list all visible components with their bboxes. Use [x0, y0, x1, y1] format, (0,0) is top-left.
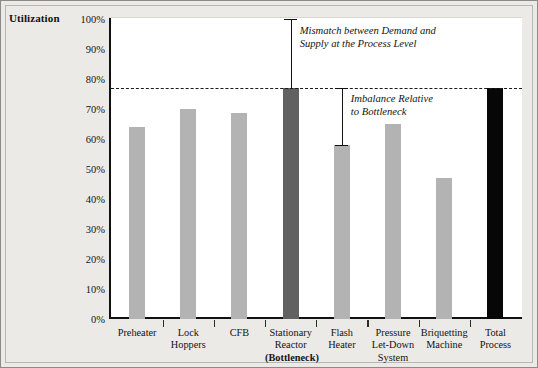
x-axis-label: FlashHeater: [316, 327, 367, 352]
bar: [129, 127, 145, 319]
plot-area: [109, 18, 522, 319]
x-axis-label-line: Flash: [316, 327, 367, 340]
annotation-line: Supply at the Process Level: [300, 37, 436, 50]
x-axis-label: Preheater: [112, 327, 163, 340]
y-axis-tick-label: 30%: [5, 223, 105, 234]
y-axis-tick-label: 90%: [5, 43, 105, 54]
annotation-mismatch-cap: [284, 19, 297, 21]
y-axis-tick-label: 20%: [5, 253, 105, 264]
x-axis-label-line: Preheater: [112, 327, 163, 340]
x-axis-label: StationaryReactor(Bottleneck): [265, 327, 316, 365]
x-axis-label-line: Let-Down: [367, 339, 418, 352]
x-axis-label: PressureLet-DownSystem: [367, 327, 418, 365]
x-axis-label-line: Total: [470, 327, 521, 340]
y-axis-tick-label: 0%: [5, 313, 105, 324]
y-axis-tick-label: 70%: [5, 103, 105, 114]
x-axis-label: LockHoppers: [163, 327, 214, 352]
x-axis-label: CFB: [214, 327, 265, 340]
x-axis-label-line: Pressure: [367, 327, 418, 340]
x-axis-label-line: Stationary: [265, 327, 316, 340]
y-axis-tick-label: 10%: [5, 283, 105, 294]
bar: [385, 124, 401, 319]
y-axis-tick-label: 50%: [5, 163, 105, 174]
annotation-imbalance-stem: [342, 88, 344, 145]
x-axis-label-line: Lock: [163, 327, 214, 340]
x-axis-label-line: Hoppers: [163, 339, 214, 352]
annotation-mismatch-text: Mismatch between Demand andSupply at the…: [300, 24, 436, 51]
y-axis-tick-label: 40%: [5, 193, 105, 204]
x-axis-label: BriquettingMachine: [419, 327, 470, 352]
y-axis-tick-label: 60%: [5, 133, 105, 144]
bottleneck-reference-line: [111, 88, 522, 89]
x-axis-label-line: System: [367, 352, 418, 365]
annotation-line: Imbalance Relative: [351, 92, 433, 105]
x-axis-label-line: Process: [470, 339, 521, 352]
annotation-line: to Bottleneck: [351, 105, 433, 118]
x-axis-label-line: Heater: [316, 339, 367, 352]
annotation-imbalance-text: Imbalance Relativeto Bottleneck: [351, 92, 433, 119]
y-axis-tick-label: 80%: [5, 73, 105, 84]
annotation-imbalance-cap: [335, 145, 348, 147]
bar: [231, 113, 247, 319]
x-axis-label-line: Machine: [419, 339, 470, 352]
annotation-imbalance-cap: [335, 88, 348, 90]
bar: [436, 178, 452, 319]
y-axis-tick-labels: 100%90%80%70%60%50%40%30%20%10%0%: [1, 1, 105, 368]
bar: [283, 88, 299, 319]
x-axis-label-line: (Bottleneck): [265, 352, 316, 365]
bar: [487, 88, 503, 319]
bar: [180, 109, 196, 319]
x-axis-label: TotalProcess: [470, 327, 521, 352]
x-axis-label-line: Reactor: [265, 339, 316, 352]
x-axis-label-line: Briquetting: [419, 327, 470, 340]
annotation-line: Mismatch between Demand and: [300, 24, 436, 37]
annotation-mismatch-stem: [291, 19, 293, 88]
bar: [334, 145, 350, 319]
y-axis-tick-label: 100%: [5, 13, 105, 24]
x-axis-label-line: CFB: [214, 327, 265, 340]
figure-frame: Utilization 100%90%80%70%60%50%40%30%20%…: [0, 0, 538, 368]
